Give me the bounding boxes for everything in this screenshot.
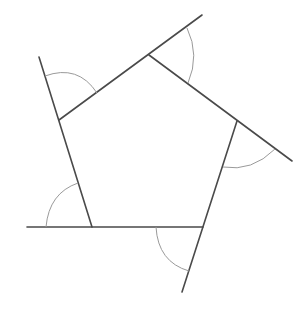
side-CD-extended — [182, 121, 237, 292]
extended-sides — [27, 15, 292, 292]
exterior-angle-arc-A — [45, 72, 97, 93]
exterior-angle-arc-C — [223, 149, 275, 168]
exterior-angle-arc-D — [156, 227, 189, 271]
exterior-angle-arc-B — [187, 28, 194, 83]
side-AB-extended — [59, 15, 202, 120]
pentagon-exterior-angles-diagram — [0, 0, 307, 314]
side-BC-extended — [149, 55, 292, 161]
side-EA-extended — [39, 57, 92, 227]
exterior-angle-arcs — [45, 28, 275, 271]
exterior-angle-arc-E — [46, 183, 78, 227]
